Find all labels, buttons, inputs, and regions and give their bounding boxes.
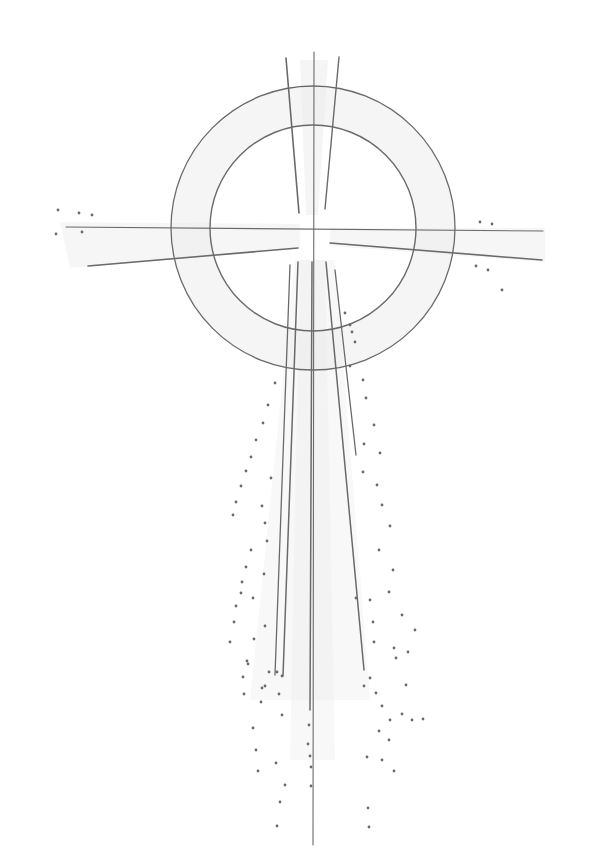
stipple-dot xyxy=(55,233,58,236)
stipple-dot xyxy=(268,671,271,674)
stipple-dot xyxy=(242,676,245,679)
stipple-dot xyxy=(281,714,284,717)
stipple-dot xyxy=(263,573,266,576)
stipple-dot xyxy=(264,522,267,525)
stipple-dot xyxy=(393,647,396,650)
stipple-dot xyxy=(344,312,347,315)
stipple-dot xyxy=(250,549,253,552)
stipple-dot xyxy=(378,549,381,552)
stipple-dot xyxy=(362,379,365,382)
stipple-dot xyxy=(407,651,410,654)
stipple-dot xyxy=(378,730,381,733)
stipple-dot xyxy=(411,719,414,722)
stipple-dot xyxy=(245,566,248,569)
stipple-dot xyxy=(395,657,398,660)
stipple-dot xyxy=(393,770,396,773)
stipple-dot xyxy=(369,599,372,602)
stipple-dot xyxy=(229,641,232,644)
stipple-dot xyxy=(270,477,273,480)
stipple-dot xyxy=(401,713,404,716)
stipple-dot xyxy=(260,701,263,704)
stipple-dot xyxy=(245,470,248,473)
stipple-dot xyxy=(491,223,494,226)
stipple-dot xyxy=(284,784,287,787)
stipple-dot xyxy=(240,592,243,595)
stipple-dot xyxy=(367,807,370,810)
stipple-dot xyxy=(252,727,255,730)
stipple-dot xyxy=(363,685,366,688)
stipple-dot xyxy=(475,265,478,268)
stipple-dot xyxy=(501,289,504,292)
stipple-dot xyxy=(373,424,376,427)
stipple-dot xyxy=(388,739,391,742)
stipple-dot xyxy=(274,382,277,385)
stipple-dot xyxy=(381,705,384,708)
stipple-dot xyxy=(307,743,310,746)
stipple-dot xyxy=(275,762,278,765)
stipple-dot xyxy=(369,677,372,680)
stipple-dot xyxy=(389,525,392,528)
stipple-dot xyxy=(279,801,282,804)
stipple-dot xyxy=(78,212,81,215)
stipple-dot xyxy=(253,638,256,641)
stipple-dot xyxy=(278,693,281,696)
stipple-dot xyxy=(372,621,375,624)
stipple-dot xyxy=(264,685,267,688)
stipple-dot xyxy=(368,826,371,829)
stipple-dot xyxy=(281,675,284,678)
stipple-dot xyxy=(247,663,250,666)
stipple-dot xyxy=(479,221,482,224)
stipple-dot xyxy=(375,692,378,695)
cross-drawing xyxy=(0,0,592,856)
stipple-dot xyxy=(243,693,246,696)
stipple-dot xyxy=(308,724,311,727)
stipple-dot xyxy=(310,785,313,788)
stipple-dot xyxy=(262,422,265,425)
stipple-dot xyxy=(392,569,395,572)
stipple-dot xyxy=(422,718,425,721)
stipple-dot xyxy=(376,484,379,487)
stipple-dot xyxy=(414,629,417,632)
stipple-dot xyxy=(355,597,358,600)
stipple-dot xyxy=(252,597,255,600)
stipple-dot xyxy=(373,641,376,644)
stipple-dot xyxy=(362,471,365,474)
stipple-dot xyxy=(261,505,264,508)
stipple-dot xyxy=(389,719,392,722)
stipple-dot xyxy=(349,365,352,368)
stipple-dot xyxy=(235,605,238,608)
stipple-dot xyxy=(81,231,84,234)
stipple-dot xyxy=(255,749,258,752)
stipple-dot xyxy=(388,591,391,594)
stipple-dot xyxy=(401,614,404,617)
stipple-dot xyxy=(266,540,269,543)
stipple-dot xyxy=(354,341,357,344)
stipple-dot xyxy=(381,504,384,507)
stipple-dot xyxy=(240,485,243,488)
stipple-dot xyxy=(246,660,249,663)
stipple-dot xyxy=(309,755,312,758)
stipple-dot xyxy=(381,759,384,762)
stipple-dot xyxy=(487,269,490,272)
stipple-dot xyxy=(349,324,352,327)
stipple-dot xyxy=(255,439,258,442)
stipple-dot xyxy=(276,825,279,828)
stipple-dot xyxy=(405,684,408,687)
stipple-dot xyxy=(232,514,235,517)
stipple-dot xyxy=(366,756,369,759)
stipple-dot xyxy=(351,331,354,334)
stipple-dot xyxy=(363,443,366,446)
stipple-dot xyxy=(241,581,244,584)
stipple-dot xyxy=(310,766,313,769)
stipple-dot xyxy=(57,209,60,212)
stipple-dot xyxy=(261,687,264,690)
stipple-dot xyxy=(235,501,238,504)
stipple-dot xyxy=(264,625,267,628)
stipple-dot xyxy=(267,404,270,407)
stipple-dot xyxy=(365,397,368,400)
stipple-dot xyxy=(91,214,94,217)
stipple-dot xyxy=(379,452,382,455)
stipple-dot xyxy=(250,456,253,459)
stipple-dot xyxy=(233,621,236,624)
stipple-dot xyxy=(276,671,279,674)
